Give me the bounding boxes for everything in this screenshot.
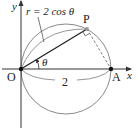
equation-leader-line bbox=[38, 17, 44, 42]
theta-angle-arc bbox=[36, 60, 39, 69]
origin-label: O bbox=[7, 70, 16, 84]
polar-circle-diagram: y x O A P θ 2 r = 2 cos θ bbox=[0, 0, 138, 130]
point-p-label: P bbox=[83, 12, 90, 26]
diameter-label: 2 bbox=[62, 75, 68, 89]
diameter-dimension-arc-left bbox=[21, 69, 55, 80]
theta-label: θ bbox=[42, 56, 48, 68]
point-a-label: A bbox=[112, 70, 121, 84]
y-axis-label: y bbox=[11, 0, 17, 12]
right-angle-mark bbox=[83, 32, 90, 36]
equation-label: r = 2 cos θ bbox=[26, 5, 75, 17]
point-o bbox=[19, 67, 23, 71]
point-p bbox=[85, 27, 89, 31]
segment-op bbox=[21, 29, 87, 69]
x-axis-label: x bbox=[126, 69, 132, 81]
diameter-dimension-arc-right bbox=[77, 69, 111, 80]
segment-pa-dashed bbox=[87, 29, 111, 69]
